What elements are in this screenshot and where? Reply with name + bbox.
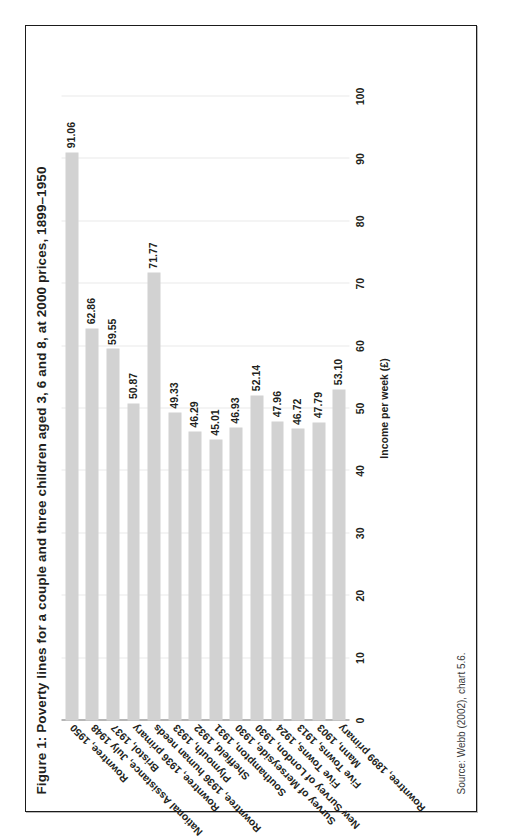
bar-value-label: 52.14 (249, 364, 261, 390)
bar-value-label: 47.79 (311, 392, 323, 418)
category-label: Five Towns, 1913 (293, 722, 362, 791)
value-tick-label: 40 (353, 465, 365, 477)
category-label: Sheffield, 1932 (190, 722, 250, 782)
bar-value-label: 62.86 (84, 297, 96, 323)
figure-title: Figure 1: Poverty lines for a couple and… (33, 54, 48, 794)
axis-baseline (61, 719, 349, 720)
gridline (61, 282, 349, 283)
category-label: Bristol, 1937 (108, 722, 161, 775)
bar-row: 71.77 (147, 96, 160, 720)
bar-value-label: 47.96 (270, 390, 282, 416)
value-tick-label: 20 (353, 589, 365, 601)
gridline (61, 157, 349, 158)
bar-value-label: 50.87 (126, 372, 138, 398)
bar-value-label: 45.01 (208, 409, 220, 435)
bar (85, 328, 98, 720)
bar-row: 46.29 (188, 96, 201, 720)
category-label: Five Towns, 1924 (273, 722, 342, 791)
gridline (61, 345, 349, 346)
gridline (61, 532, 349, 533)
bar-row: 47.96 (271, 96, 284, 720)
bar-row: 50.87 (127, 96, 140, 720)
value-tick-label: 50 (353, 402, 365, 414)
bar-row: 53.10 (332, 96, 345, 720)
gridline (61, 220, 349, 221)
value-tick-label: 60 (353, 340, 365, 352)
value-tick-label: 100 (353, 87, 365, 105)
value-tick-label: 80 (353, 215, 365, 227)
category-label: Rowntree, 1899 primary (334, 722, 426, 814)
bar-value-label: 46.29 (187, 401, 199, 427)
bar (106, 348, 119, 720)
value-tick-label: 90 (353, 153, 365, 165)
category-label: Mann, 1903 (314, 722, 363, 771)
plot-area: 53.1047.7946.7247.9652.1446.9345.0146.29… (61, 96, 349, 720)
bar (332, 389, 345, 720)
category-label: Rowntree, 1936 human needs (149, 722, 262, 835)
gridline (61, 407, 349, 408)
value-tick-label: 0 (353, 717, 365, 723)
bar-row: 52.14 (250, 96, 263, 720)
bar-row: 46.72 (291, 96, 304, 720)
value-tick-label: 30 (353, 527, 365, 539)
value-axis-title: Income per week (£) (377, 96, 389, 720)
category-label: Plymouth, 1933 (170, 722, 233, 785)
value-tick-label: 70 (353, 277, 365, 289)
bar-row: 49.33 (168, 96, 181, 720)
category-label: Rowntree, 1936 primary (129, 722, 221, 814)
gridline (61, 594, 349, 595)
source-note: Source: Webb (2002), chart 5.6. (455, 652, 466, 794)
bar (229, 427, 242, 720)
bar (271, 421, 284, 720)
bar-row: 47.79 (312, 96, 325, 720)
gridlines (61, 96, 349, 720)
bar-value-label: 91.06 (64, 122, 76, 148)
gridline (61, 657, 349, 658)
category-label: Rowntree, 1950 (67, 722, 130, 785)
category-label: National Assistance, July 1948 (88, 722, 204, 838)
bar (209, 439, 222, 720)
bar (250, 395, 263, 720)
bar-row: 62.86 (85, 96, 98, 720)
bar (65, 152, 78, 720)
bar (312, 422, 325, 720)
figure-frame: Figure 1: Poverty lines for a couple and… (25, 25, 477, 812)
bar-row: 46.93 (229, 96, 242, 720)
bar-row: 45.01 (209, 96, 222, 720)
rotated-figure-stage: Figure 1: Poverty lines for a couple and… (25, 25, 477, 812)
bar-row: 91.06 (65, 96, 78, 720)
category-label: Southampton, 1931 (211, 722, 288, 799)
bar-value-label: 49.33 (167, 382, 179, 408)
bar-value-label: 71.77 (146, 242, 158, 268)
category-label: New Survey of London, 1930 (252, 722, 362, 832)
bar-row: 59.55 (106, 96, 119, 720)
category-label: Survey of Merseyside, 1930 (232, 722, 337, 827)
bar-value-label: 59.55 (105, 318, 117, 344)
bar-value-label: 46.93 (228, 397, 240, 423)
value-tick-label: 10 (353, 652, 365, 664)
gridline (61, 469, 349, 470)
bar-value-label: 46.72 (290, 398, 302, 424)
bar (291, 428, 304, 720)
bar (147, 272, 160, 720)
bar (168, 412, 181, 720)
bar (127, 403, 140, 720)
gridline (61, 95, 349, 96)
bar (188, 431, 201, 720)
bar-value-label: 53.10 (331, 358, 343, 384)
